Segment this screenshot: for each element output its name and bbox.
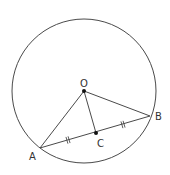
segments [40,91,150,148]
point-labels: OABC [29,78,162,162]
label-C: C [97,138,104,149]
label-O: O [80,78,88,89]
point-O [82,89,86,93]
label-B: B [155,111,162,122]
label-A: A [29,151,36,162]
point-C [94,131,98,135]
segment-OA [40,91,84,148]
segment-OB [84,91,150,116]
segment-OC [84,91,96,133]
tick-mark-CB [121,121,125,128]
geometry-diagram: OABC [0,0,170,175]
